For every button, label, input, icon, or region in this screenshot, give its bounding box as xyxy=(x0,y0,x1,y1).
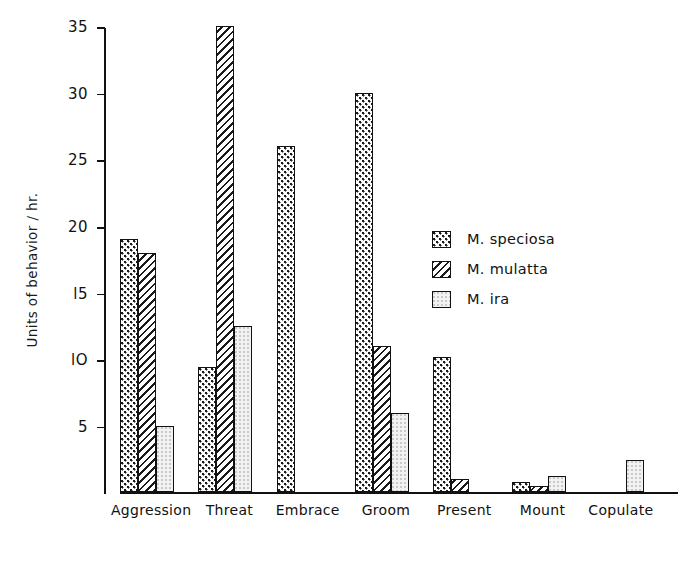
bar xyxy=(548,476,566,492)
bar xyxy=(198,367,216,492)
group-baseline xyxy=(198,492,286,494)
y-axis-tick: 20 xyxy=(97,227,105,229)
y-axis-title: Units of behavior / hr. xyxy=(24,160,40,380)
bar-group xyxy=(198,28,288,494)
bar-group xyxy=(277,28,367,494)
bar xyxy=(451,479,469,492)
y-axis-tick-label: 20 xyxy=(68,218,88,236)
bar xyxy=(512,482,530,493)
y-axis-tick: 30 xyxy=(97,94,105,96)
bar xyxy=(120,239,138,492)
legend-swatch-mulatta-icon xyxy=(432,261,451,278)
y-axis-tick: l5 xyxy=(97,294,105,296)
bar xyxy=(355,93,373,492)
legend-label: M. mulatta xyxy=(467,261,548,277)
legend-item: M. ira xyxy=(432,284,555,314)
y-axis-line xyxy=(104,28,106,494)
bar xyxy=(391,413,409,493)
group-baseline xyxy=(355,492,443,494)
legend-item: M. speciosa xyxy=(432,224,555,254)
bar xyxy=(234,326,252,492)
x-axis-category-label: Threat xyxy=(206,502,253,518)
x-axis-category-label: Groom xyxy=(362,502,411,518)
bar xyxy=(530,486,548,493)
bar-group xyxy=(590,28,680,494)
bar xyxy=(626,460,644,492)
chart-legend: M. speciosa M. mulatta M. ira xyxy=(432,224,555,314)
group-baseline xyxy=(512,492,600,494)
bar xyxy=(156,426,174,493)
y-axis-tick-label: 5 xyxy=(78,418,88,436)
bar xyxy=(216,26,234,492)
y-axis-tick-label: 30 xyxy=(68,85,88,103)
legend-swatch-speciosa-icon xyxy=(432,231,451,248)
y-axis-tick: lO xyxy=(97,360,105,362)
x-axis-category-label: Aggression xyxy=(111,502,191,518)
plot-area: 5lOl520253035 xyxy=(104,28,652,494)
legend-label: M. ira xyxy=(467,291,509,307)
y-axis-tick-label: lO xyxy=(71,351,88,369)
bar xyxy=(373,346,391,492)
x-axis-category-label: Embrace xyxy=(276,502,340,518)
group-baseline xyxy=(590,492,678,494)
legend-swatch-ira-icon xyxy=(432,291,451,308)
legend-label: M. speciosa xyxy=(467,231,555,247)
legend-item: M. mulatta xyxy=(432,254,555,284)
x-axis-category-label: Copulate xyxy=(588,502,653,518)
bar xyxy=(138,253,156,493)
y-axis-tick: 5 xyxy=(97,427,105,429)
group-baseline xyxy=(433,492,521,494)
y-axis-tick-label: l5 xyxy=(73,285,88,303)
y-axis-tick-label: 25 xyxy=(68,151,88,169)
y-axis-tick-label: 35 xyxy=(68,18,88,36)
group-baseline xyxy=(277,492,365,494)
bar-group xyxy=(120,28,210,494)
bar xyxy=(433,357,451,493)
bar xyxy=(277,146,295,492)
y-axis-tick: 35 xyxy=(97,27,105,29)
x-axis-category-label: Present xyxy=(437,502,492,518)
x-axis-category-label: Mount xyxy=(520,502,565,518)
y-axis-tick: 25 xyxy=(97,160,105,162)
group-baseline xyxy=(120,492,208,494)
